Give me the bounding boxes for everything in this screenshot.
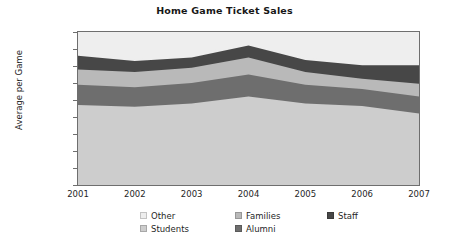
x-axis-tick-label: 2005 xyxy=(295,189,317,199)
y-axis-label: Average per Game xyxy=(14,30,24,150)
legend-swatch-icon xyxy=(140,225,147,232)
legend-item-other[interactable]: Other xyxy=(140,211,235,221)
x-axis-tick-label: 2001 xyxy=(67,189,89,199)
legend-item-staff[interactable]: Staff xyxy=(327,211,390,221)
legend-label: Other xyxy=(151,211,175,221)
legend-swatch-icon xyxy=(235,212,242,219)
legend-label: Families xyxy=(246,211,280,221)
legend-swatch-icon xyxy=(140,212,147,219)
x-axis-tick-label: 2002 xyxy=(124,189,146,199)
x-axis-tick-label: 2007 xyxy=(408,189,430,199)
area-band-students xyxy=(78,97,419,185)
x-axis-tick-label: 2006 xyxy=(351,189,373,199)
legend-item-students[interactable]: Students xyxy=(140,224,235,234)
legend-item-families[interactable]: Families xyxy=(235,211,327,221)
x-axis-tick-label: 2003 xyxy=(181,189,203,199)
stacked-area-plot xyxy=(78,32,419,185)
chart-legend: OtherFamiliesStaffStudentsAlumni xyxy=(140,209,390,235)
chart-title: Home Game Ticket Sales xyxy=(0,5,449,16)
plot-area xyxy=(77,31,420,186)
legend-label: Students xyxy=(151,224,189,234)
x-axis-tick-label: 2004 xyxy=(238,189,260,199)
chart-container: Home Game Ticket Sales Average per Game … xyxy=(0,0,449,246)
legend-swatch-icon xyxy=(235,225,242,232)
legend-label: Alumni xyxy=(246,224,276,234)
legend-swatch-icon xyxy=(327,212,334,219)
legend-item-alumni[interactable]: Alumni xyxy=(235,224,327,234)
legend-label: Staff xyxy=(338,211,358,221)
